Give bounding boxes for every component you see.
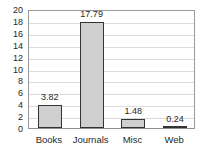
- x-axis: Books Journals Misc Web: [28, 132, 195, 152]
- plot-area: 3.82 17.79 1.48 0.24: [28, 10, 195, 129]
- y-tick-label: 16: [13, 29, 23, 38]
- bar-web[interactable]: [163, 126, 187, 128]
- y-tick-label: 0: [18, 125, 23, 134]
- x-tick-label-journals: Journals: [73, 134, 109, 145]
- bar-slot-books: 3.82: [29, 11, 71, 128]
- y-tick-label: 20: [13, 6, 23, 15]
- bar-value-label: 17.79: [80, 10, 103, 19]
- y-axis: 20 18 16 14 12 10 8 6 4 2 0: [0, 0, 27, 158]
- gridline-baseline: [29, 128, 194, 129]
- y-tick-label: 10: [13, 65, 23, 74]
- bar-chart: 20 18 16 14 12 10 8 6 4 2 0 3.82: [0, 0, 206, 158]
- bar-slot-misc: 1.48: [113, 11, 155, 128]
- y-tick-label: 2: [18, 113, 23, 122]
- bar-books[interactable]: [38, 105, 62, 128]
- bars-layer: 3.82 17.79 1.48 0.24: [29, 11, 194, 128]
- bar-journals[interactable]: [80, 22, 104, 128]
- bar-slot-journals: 17.79: [71, 11, 113, 128]
- x-tick-label-books: Books: [36, 134, 62, 145]
- bar-slot-web: 0.24: [154, 11, 196, 128]
- x-tick-label-web: Web: [164, 134, 183, 145]
- y-tick-label: 12: [13, 53, 23, 62]
- y-tick-label: 18: [13, 17, 23, 26]
- y-tick-label: 8: [18, 77, 23, 86]
- bar-value-label: 3.82: [41, 93, 59, 102]
- y-tick-label: 4: [18, 101, 23, 110]
- bar-value-label: 1.48: [125, 107, 143, 116]
- y-tick-label: 14: [13, 41, 23, 50]
- x-tick-label-misc: Misc: [123, 134, 143, 145]
- bar-value-label: 0.24: [166, 115, 184, 124]
- y-tick-label: 6: [18, 89, 23, 98]
- bar-misc[interactable]: [121, 119, 145, 128]
